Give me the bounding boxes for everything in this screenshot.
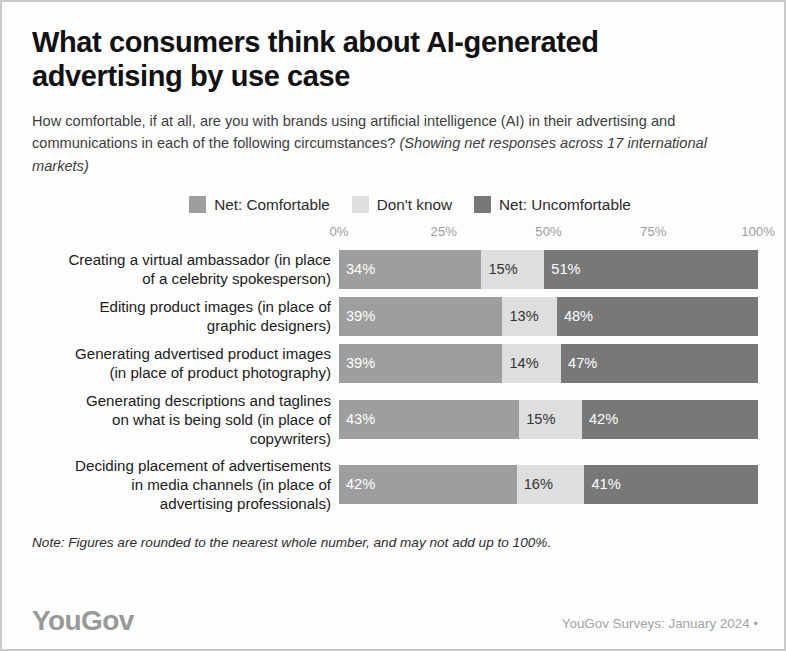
bar-row-label: Editing product images (in place ofgraph…: [32, 297, 339, 335]
bar-segment-uncomfortable[interactable]: 41%: [584, 465, 758, 504]
bar-segment-value: 51%: [544, 261, 580, 277]
bar-segment-uncomfortable[interactable]: 51%: [544, 250, 758, 289]
yougov-logo: YouGov: [32, 607, 134, 635]
x-axis-tick-label: 100%: [741, 224, 775, 239]
legend-item[interactable]: Net: Comfortable: [189, 196, 330, 214]
bar-segment-uncomfortable[interactable]: 48%: [557, 297, 758, 336]
x-axis: 0%25%50%75%100%: [339, 224, 758, 242]
bar-row-label-line: Generating advertised product images: [32, 344, 331, 363]
source-credit: YouGov Surveys: January 2024 •: [562, 616, 758, 635]
bar-segment-value: 34%: [339, 261, 375, 277]
bar-row-label-line: advertising professionals): [32, 494, 331, 513]
legend-label: Net: Uncomfortable: [499, 196, 631, 214]
bar-segment-comfortable[interactable]: 34%: [339, 250, 481, 289]
bar-row: Creating a virtual ambassador (in placeo…: [32, 250, 758, 289]
bar-row-label-line: Deciding placement of advertisements: [32, 456, 331, 475]
bar-track: 34%15%51%: [339, 250, 758, 289]
bar-segment-value: 48%: [557, 308, 593, 324]
bar-segment-comfortable[interactable]: 39%: [339, 344, 502, 383]
legend-label: Net: Comfortable: [214, 196, 330, 214]
bar-row-label: Generating advertised product images(in …: [32, 344, 339, 382]
bar-row-label: Generating descriptions and taglineson w…: [32, 391, 339, 448]
bar-segment-dontknow[interactable]: 15%: [481, 250, 544, 289]
bar-segment-dontknow[interactable]: 16%: [517, 465, 585, 504]
bar-segment-comfortable[interactable]: 39%: [339, 297, 502, 336]
bar-rows: Creating a virtual ambassador (in placeo…: [32, 250, 758, 513]
bar-segment-value: 39%: [339, 355, 375, 371]
legend-swatch-icon: [189, 196, 206, 213]
bar-segment-value: 42%: [582, 411, 618, 427]
x-axis-tick-label: 50%: [535, 224, 561, 239]
page-title: What consumers think about AI-generated …: [32, 26, 692, 93]
bar-row: Deciding placement of advertisementsin m…: [32, 456, 758, 513]
bar-row-label-line: in media channels (in place of: [32, 475, 331, 494]
bar-segment-comfortable[interactable]: 42%: [339, 465, 517, 504]
bar-row-label-line: copywriters): [32, 429, 331, 448]
bar-track: 39%14%47%: [339, 344, 758, 383]
chart-note: Note: Figures are rounded to the nearest…: [32, 535, 758, 550]
bar-track: 42%16%41%: [339, 465, 758, 504]
bar-row: Generating advertised product images(in …: [32, 344, 758, 383]
bar-track: 43%15%42%: [339, 400, 758, 439]
bar-segment-dontknow[interactable]: 15%: [519, 400, 582, 439]
bar-segment-value: 41%: [584, 476, 620, 492]
legend-item[interactable]: Don't know: [352, 196, 452, 214]
x-axis-tick-label: 25%: [431, 224, 457, 239]
bar-track: 39%13%48%: [339, 297, 758, 336]
bar-row: Editing product images (in place ofgraph…: [32, 297, 758, 336]
bar-segment-value: 15%: [519, 411, 555, 427]
legend-swatch-icon: [474, 196, 491, 213]
legend-label: Don't know: [377, 196, 452, 214]
bar-row-label: Deciding placement of advertisementsin m…: [32, 456, 339, 513]
bar-segment-uncomfortable[interactable]: 42%: [582, 400, 758, 439]
bar-row: Generating descriptions and taglineson w…: [32, 391, 758, 448]
chart-card: What consumers think about AI-generated …: [0, 0, 786, 651]
card-footer: YouGov YouGov Surveys: January 2024 •: [32, 607, 758, 635]
bar-segment-value: 13%: [502, 308, 538, 324]
bar-segment-value: 43%: [339, 411, 375, 427]
bar-segment-value: 14%: [502, 355, 538, 371]
bar-segment-value: 15%: [481, 261, 517, 277]
bar-segment-comfortable[interactable]: 43%: [339, 400, 519, 439]
bar-segment-value: 42%: [339, 476, 375, 492]
bar-row-label-line: Creating a virtual ambassador (in place: [32, 250, 331, 269]
legend-item[interactable]: Net: Uncomfortable: [474, 196, 631, 214]
bar-row-label-line: (in place of product photography): [32, 363, 331, 382]
x-axis-tick-label: 0%: [329, 224, 348, 239]
bar-row-label-line: Generating descriptions and taglines: [32, 391, 331, 410]
bar-segment-value: 16%: [517, 476, 553, 492]
bar-segment-value: 39%: [339, 308, 375, 324]
bar-segment-dontknow[interactable]: 14%: [502, 344, 561, 383]
x-axis-tick-label: 75%: [640, 224, 666, 239]
bar-row-label-line: of a celebrity spokesperson): [32, 269, 331, 288]
bar-segment-dontknow[interactable]: 13%: [502, 297, 556, 336]
chart-legend: Net: ComfortableDon't knowNet: Uncomfort…: [32, 196, 758, 214]
chart-subtitle: How comfortable, if at all, are you with…: [32, 110, 756, 177]
chart-plot-area: 0%25%50%75%100% Creating a virtual ambas…: [32, 224, 758, 513]
bar-row-label: Creating a virtual ambassador (in placeo…: [32, 250, 339, 288]
bar-row-label-line: graphic designers): [32, 316, 331, 335]
legend-swatch-icon: [352, 196, 369, 213]
bar-row-label-line: Editing product images (in place of: [32, 297, 331, 316]
bar-segment-uncomfortable[interactable]: 47%: [561, 344, 758, 383]
bar-row-label-line: on what is being sold (in place of: [32, 410, 331, 429]
bar-segment-value: 47%: [561, 355, 597, 371]
